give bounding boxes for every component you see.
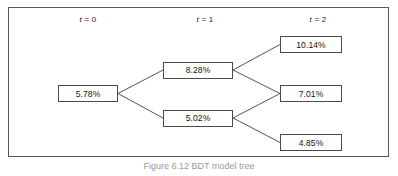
- tree-node-t0-5-78: 5.78%: [58, 85, 118, 102]
- tree-node-t2-ud-value: 7.01%: [299, 89, 324, 99]
- period-label-t2: t = 2: [310, 15, 327, 24]
- tree-node-t2-ud-7-01: 7.01%: [280, 85, 342, 102]
- tree-node-t1-up-8-28: 8.28%: [163, 62, 233, 79]
- binomial-tree-figure: t = 0 t = 1 t = 2 5.78% 8.28% 5.02% 10.1…: [0, 0, 398, 176]
- period-label-t1-eq: = 1: [199, 15, 213, 24]
- tree-node-t2-dd-4-85: 4.85%: [280, 134, 342, 151]
- period-label-t2-eq: = 2: [312, 15, 326, 24]
- tree-node-t1-down-5-02: 5.02%: [163, 110, 233, 127]
- tree-node-t1-down-value: 5.02%: [186, 113, 211, 123]
- period-label-t0-eq: = 0: [82, 15, 96, 24]
- tree-node-t1-up-value: 8.28%: [186, 65, 211, 75]
- figure-caption: Figure 6.12 BDT model tree: [0, 161, 398, 176]
- tree-node-t2-uu-10-14: 10.14%: [280, 36, 342, 53]
- tree-node-t0-value: 5.78%: [76, 89, 101, 99]
- period-label-t1: t = 1: [197, 15, 214, 24]
- tree-node-t2-dd-value: 4.85%: [299, 138, 324, 148]
- period-label-t0: t = 0: [80, 15, 97, 24]
- tree-node-t2-uu-value: 10.14%: [296, 40, 325, 50]
